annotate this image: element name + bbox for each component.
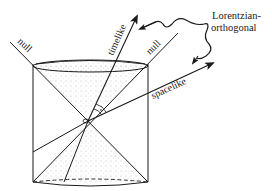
annotation-arrow-right xyxy=(193,56,198,63)
label-spacelike: spacelike xyxy=(149,75,188,101)
angle-dot xyxy=(100,109,102,111)
past-cone xyxy=(33,121,148,186)
label-null-right: null xyxy=(144,38,163,57)
light-cone-diagram: null null timelike spacelike Lorentzian-… xyxy=(0,0,272,191)
label-lorentzian: Lorentzian- xyxy=(212,10,261,21)
label-timelike: timelike xyxy=(105,22,129,57)
future-cone xyxy=(33,60,148,121)
label-null-left: null xyxy=(16,35,35,54)
annotation-arrow-left xyxy=(140,22,156,29)
label-orthogonal: orthogonal xyxy=(211,22,257,33)
